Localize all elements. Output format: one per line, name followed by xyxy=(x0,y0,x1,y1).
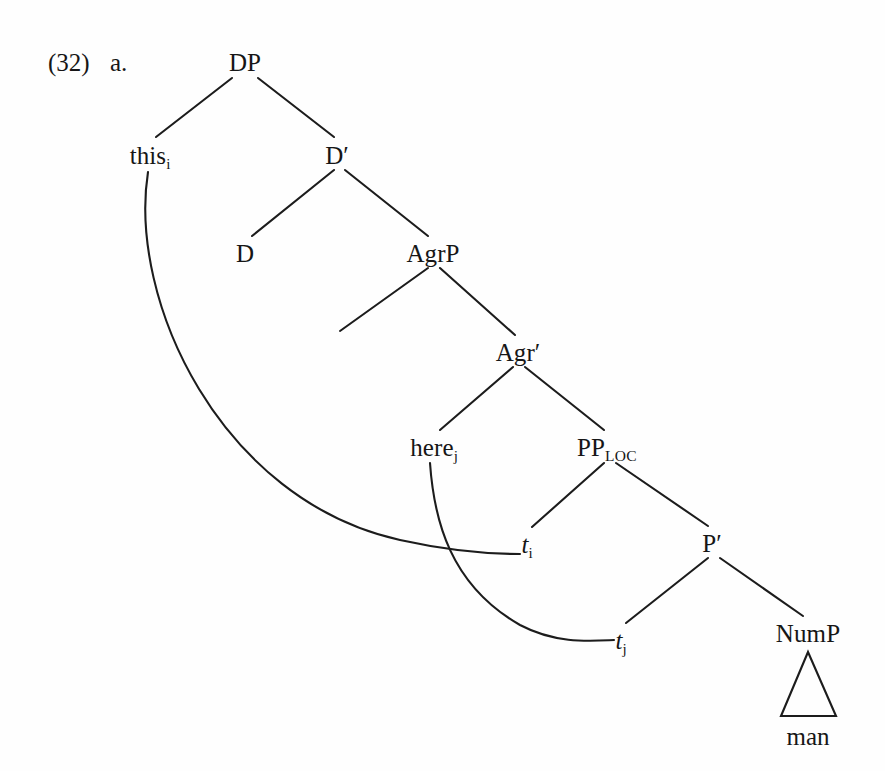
node-label: D xyxy=(236,240,254,267)
tree-node-nump: NumP xyxy=(776,621,840,646)
syntax-tree-figure: (32) a. DPthisiD′DAgrPAgr′herejPPLOCtiP′… xyxy=(0,0,885,771)
tree-node-agrp: AgrP xyxy=(406,241,459,266)
node-smallcaps-subscript: LOC xyxy=(605,446,637,463)
tree-node-pploc: PPLOC xyxy=(577,435,637,460)
terminal-man: man xyxy=(786,724,829,749)
pbar-to-tj xyxy=(626,558,708,623)
dbar-to-d xyxy=(252,170,334,236)
node-label: P′ xyxy=(702,530,722,557)
tree-node-dp: DP xyxy=(229,50,261,75)
movement-arc-layer xyxy=(145,172,614,641)
tree-node-d: D xyxy=(236,241,254,266)
tree-node-here: herej xyxy=(410,435,458,460)
tree-node-ti: ti xyxy=(521,532,532,557)
dp-to-dbar xyxy=(258,78,334,137)
tree-node-tj: tj xyxy=(615,628,626,653)
agrp-to-agrbar xyxy=(440,268,515,335)
arc-this-to-ti xyxy=(145,172,520,554)
node-label: here xyxy=(410,434,453,461)
triangle-layer xyxy=(781,652,836,716)
agrbar-to-here xyxy=(440,367,513,430)
node-label: AgrP xyxy=(406,240,459,267)
pploc-to-ti xyxy=(532,463,604,527)
pbar-to-nump xyxy=(720,558,803,616)
tree-lines xyxy=(0,0,885,771)
node-index-subscript: j xyxy=(622,640,626,656)
pploc-to-pbar xyxy=(616,463,708,526)
node-label: t xyxy=(521,531,528,558)
node-label: D′ xyxy=(325,142,349,169)
node-label: Agr′ xyxy=(496,339,541,366)
node-index-subscript: i xyxy=(528,544,532,560)
node-label: NumP xyxy=(776,620,840,647)
tree-node-agrbar: Agr′ xyxy=(496,340,541,365)
tree-node-this: thisi xyxy=(130,143,171,168)
dbar-to-agrp xyxy=(345,170,428,236)
nump-triangle xyxy=(781,652,836,716)
agrp-to-spec xyxy=(340,268,428,331)
node-label: PP xyxy=(577,434,605,461)
node-label: this xyxy=(130,142,167,169)
dp-to-this xyxy=(156,78,232,137)
node-label: t xyxy=(615,627,622,654)
node-label: DP xyxy=(229,49,261,76)
agrbar-to-pploc xyxy=(525,367,604,430)
node-index-subscript: i xyxy=(166,155,170,171)
tree-node-dbar: D′ xyxy=(325,143,349,168)
node-index-subscript: j xyxy=(454,447,458,463)
tree-node-pbar: P′ xyxy=(702,531,722,556)
